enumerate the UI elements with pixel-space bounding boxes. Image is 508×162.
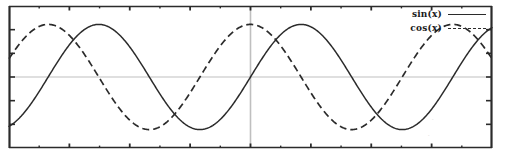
legend-swatch-cos-dashed-line: [448, 24, 486, 34]
legend-entry-cos[interactable]: cos(x): [410, 23, 486, 34]
legend-label-cos: cos(x): [410, 23, 442, 34]
legend: sin(x) cos(x): [410, 9, 486, 34]
plot-figure: sin(x) cos(x) · ·: [0, 0, 508, 162]
legend-entry-sin[interactable]: sin(x): [410, 9, 486, 20]
legend-label-sin: sin(x): [412, 9, 442, 20]
legend-swatch-sin-solid-line: [448, 10, 486, 20]
